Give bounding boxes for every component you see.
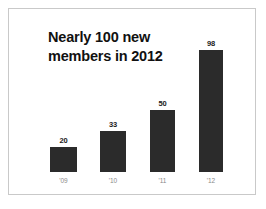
bar-value-label: 50 (142, 99, 183, 108)
bar-09 (50, 147, 77, 172)
x-tick-label: '11 (140, 177, 185, 184)
bar-12 (199, 50, 223, 172)
bar-11 (150, 110, 175, 172)
x-tick-label: '09 (40, 177, 87, 184)
bar-10 (100, 131, 126, 172)
bar-value-label: 20 (42, 136, 85, 145)
bar-chart-plot-area: 20'0933'1050'1198'12 (0, 0, 266, 209)
chart-screenshot: Nearly 100 new members in 2012 20'0933'1… (0, 0, 266, 209)
x-tick-label: '12 (189, 177, 233, 184)
bar-value-label: 98 (191, 39, 231, 48)
x-tick-label: '10 (90, 177, 136, 184)
bar-value-label: 33 (92, 120, 134, 129)
